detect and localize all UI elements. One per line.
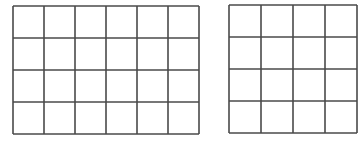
right-grid-lines [228, 4, 358, 134]
right-grid [228, 4, 358, 134]
left-grid-lines [12, 5, 200, 135]
left-grid [12, 5, 200, 135]
